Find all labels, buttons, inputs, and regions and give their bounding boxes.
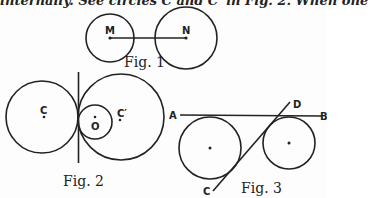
tangent-line-ab	[180, 115, 322, 116]
label-c: C	[40, 105, 47, 116]
caption-fig-2: Fig. 2	[63, 173, 104, 189]
center-dot-c	[43, 116, 46, 119]
center-dot-left	[209, 147, 212, 150]
figure-2	[6, 72, 164, 163]
label-m: M	[105, 25, 115, 36]
center-dot-right	[288, 142, 291, 145]
label-a: A	[169, 110, 177, 121]
center-dot-o	[94, 116, 97, 119]
label-n: N	[182, 25, 190, 36]
label-o: O	[91, 121, 100, 132]
label-c-prime: C′	[117, 108, 127, 119]
label-d: D	[293, 99, 301, 110]
label-c-fig3: C	[203, 186, 210, 197]
caption-fig-3: Fig. 3	[241, 180, 282, 196]
center-dot-m	[108, 36, 111, 39]
figure-3	[179, 102, 322, 191]
center-dot-n	[184, 36, 187, 39]
center-dot-c-prime	[119, 119, 122, 122]
label-b: B	[320, 111, 327, 122]
caption-fig-1: Fig. 1	[124, 54, 165, 70]
circle-c	[6, 81, 78, 153]
